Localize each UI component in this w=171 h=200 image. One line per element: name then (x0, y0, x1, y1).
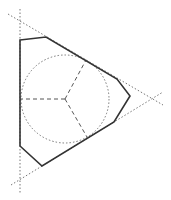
triangle-guide-lines (8, 9, 163, 193)
radius-line-3 (65, 99, 87, 137)
radius-line-2 (65, 60, 86, 99)
incircle-diagram (0, 0, 171, 200)
diagram-canvas (0, 0, 171, 200)
